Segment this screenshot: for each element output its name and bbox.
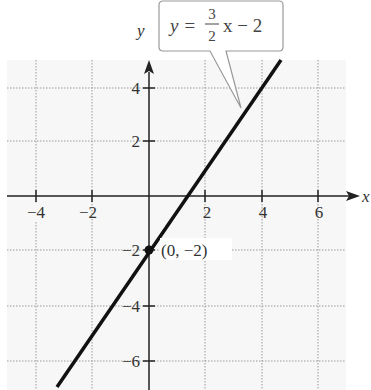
line-chart: x y −4 −2 2 4 6 4 2 −2 −4 −6 (0, −2 — [0, 0, 371, 390]
x-tick-label: 6 — [315, 203, 324, 222]
callout-denominator: 2 — [208, 28, 216, 44]
plot-area — [7, 60, 346, 390]
point-label: (0, −2) — [161, 241, 207, 260]
callout-suffix: x − 2 — [223, 15, 262, 36]
x-tick-label: 2 — [203, 203, 212, 222]
x-tick-label: 4 — [259, 203, 268, 222]
y-tick-label: −6 — [122, 352, 140, 371]
x-axis-label: x — [361, 187, 370, 206]
callout-numerator: 3 — [208, 6, 216, 22]
y-tick-label: −2 — [122, 241, 140, 260]
y-tick-label: −4 — [122, 297, 141, 316]
y-tick-label: 2 — [132, 132, 141, 151]
callout-prefix: y = — [168, 15, 196, 36]
point-marker — [145, 246, 154, 255]
y-axis-label: y — [135, 21, 145, 40]
x-tick-label: −4 — [27, 203, 46, 222]
y-tick-label: 4 — [132, 79, 141, 98]
x-tick-label: −2 — [79, 203, 97, 222]
